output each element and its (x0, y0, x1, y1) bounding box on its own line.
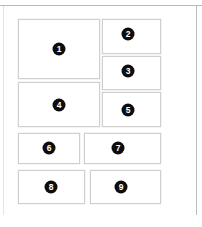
panel-number-badge: 8 (45, 181, 58, 194)
panel-number-badge: 6 (43, 142, 56, 155)
panel-number-badge: 2 (122, 28, 135, 41)
page-canvas: 123456789 (0, 0, 202, 227)
panel-number-badge: 3 (122, 65, 135, 78)
left-rule (3, 6, 4, 215)
panel-number-badge: 5 (122, 104, 135, 117)
panel-number-badge: 1 (53, 43, 66, 56)
panel-number-badge: 9 (115, 181, 128, 194)
panel-number-badge: 7 (112, 142, 125, 155)
right-rule (196, 6, 197, 215)
top-rule (0, 5, 202, 6)
panel-number-badge: 4 (53, 99, 66, 112)
